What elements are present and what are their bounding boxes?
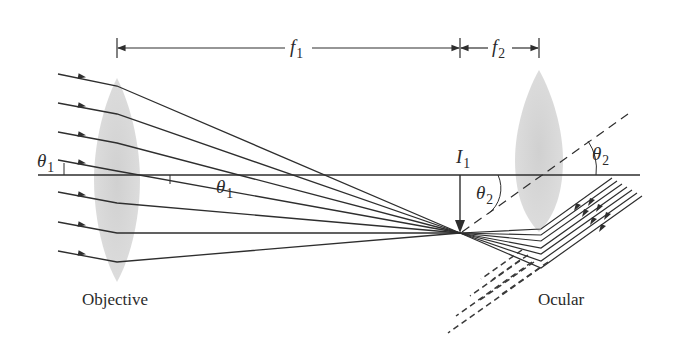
ocular-lens [515,70,563,232]
theta2-right-label: θ2 [592,143,609,165]
f2-label: f2 [492,36,505,58]
focal-length-dimensions [117,38,539,58]
theta1-left-label: θ1 [37,150,54,172]
ocular-label: Ocular [538,290,584,310]
objective-label: Objective [82,290,148,310]
f1-label: f1 [290,36,303,58]
telescope-diagram: f1 f2 θ1 θ1 I1 θ2 θ2 Objective Ocular [0,0,673,341]
theta2-mid-label: θ2 [476,182,493,204]
virtual-ray-extensions [448,250,548,333]
theta1-mid-label: θ1 [216,176,233,198]
image-i1-label: I1 [456,146,470,168]
objective-lens [94,78,140,282]
